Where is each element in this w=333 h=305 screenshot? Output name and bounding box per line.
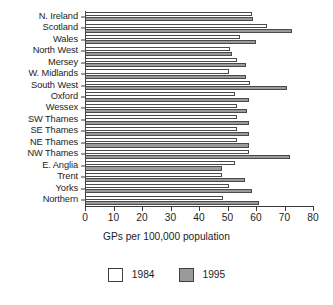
bar-chart: N. IrelandScotlandWalesNorth WestMerseyW… xyxy=(0,0,333,305)
bar-1995 xyxy=(85,86,287,90)
bar-1984 xyxy=(85,104,237,108)
x-axis-tick-label: 10 xyxy=(108,213,119,223)
bar-1984 xyxy=(85,138,237,142)
chart-legend: 1984 1995 xyxy=(0,268,333,282)
bar-1984 xyxy=(85,115,237,119)
x-axis-tick xyxy=(142,206,143,211)
legend-label-1995: 1995 xyxy=(203,270,226,280)
y-axis-label: Yorks xyxy=(56,184,78,193)
bar-1995 xyxy=(85,166,222,170)
bar-1995 xyxy=(85,109,247,113)
bar-1995 xyxy=(85,189,252,193)
bar-1995 xyxy=(85,155,290,159)
legend-swatch-1984-icon xyxy=(108,268,123,282)
y-axis-label: NW Thames xyxy=(27,150,78,159)
bar-1995 xyxy=(85,143,249,147)
bar-1995 xyxy=(85,29,292,33)
bar-1984 xyxy=(85,150,249,154)
x-axis-tick xyxy=(228,206,229,211)
bar-1984 xyxy=(85,184,229,188)
chart-row: NE Thames xyxy=(85,137,313,148)
x-axis-tick-label: 70 xyxy=(279,213,290,223)
bar-1995 xyxy=(85,52,232,56)
bar-1984 xyxy=(85,12,252,16)
chart-row: South West xyxy=(85,80,313,91)
bar-1995 xyxy=(85,17,253,21)
x-axis-tick-label: 50 xyxy=(222,213,233,223)
chart-row: W. Midlands xyxy=(85,68,313,79)
x-axis-tick-label: 20 xyxy=(136,213,147,223)
y-axis-label: E. Anglia xyxy=(42,161,78,170)
chart-row: Mersey xyxy=(85,57,313,68)
bar-1984 xyxy=(85,47,230,51)
y-axis-label: South West xyxy=(31,81,78,90)
bar-1984 xyxy=(85,92,235,96)
chart-row: N. Ireland xyxy=(85,11,313,22)
legend-item-1984: 1984 xyxy=(108,268,155,282)
y-axis-label: North West xyxy=(33,46,78,55)
x-axis-tick-label: 30 xyxy=(165,213,176,223)
bar-1995 xyxy=(85,132,249,136)
chart-row: North West xyxy=(85,45,313,56)
x-axis-tick-label: 80 xyxy=(307,213,318,223)
legend-item-1995: 1995 xyxy=(179,268,226,282)
x-axis-tick xyxy=(199,206,200,211)
x-axis-tick-label: 0 xyxy=(82,213,88,223)
bar-1995 xyxy=(85,121,249,125)
x-axis-tick xyxy=(285,206,286,211)
bar-1984 xyxy=(85,24,267,28)
x-axis-tick xyxy=(256,206,257,211)
y-axis-label: NE Thames xyxy=(30,138,78,147)
bar-1984 xyxy=(85,35,240,39)
chart-row: SE Thames xyxy=(85,126,313,137)
bar-1984 xyxy=(85,69,229,73)
x-axis-tick-label: 40 xyxy=(193,213,204,223)
x-axis-tick-label: 60 xyxy=(250,213,261,223)
chart-row: NW Thames xyxy=(85,149,313,160)
bar-1984 xyxy=(85,58,237,62)
x-axis-tick xyxy=(313,206,314,211)
bar-1984 xyxy=(85,127,237,131)
bar-1995 xyxy=(85,75,246,79)
chart-row: SW Thames xyxy=(85,114,313,125)
legend-label-1984: 1984 xyxy=(132,270,155,280)
legend-swatch-1995-icon xyxy=(179,268,194,282)
y-axis-label: N. Ireland xyxy=(39,12,78,21)
bar-1984 xyxy=(85,173,222,177)
y-axis-label: Wessex xyxy=(46,104,78,113)
x-axis-tick xyxy=(85,206,86,211)
bar-1995 xyxy=(85,98,249,102)
y-axis-label: Wales xyxy=(53,35,78,44)
x-axis-title: GPs per 100,000 population xyxy=(0,231,333,242)
y-axis-label: Oxford xyxy=(51,92,78,101)
y-axis-label: SE Thames xyxy=(30,127,78,136)
bar-1995 xyxy=(85,63,246,67)
bar-1995 xyxy=(85,40,256,44)
plot-area: N. IrelandScotlandWalesNorth WestMerseyW… xyxy=(85,11,313,206)
bar-1995 xyxy=(85,178,245,182)
chart-row: Trent xyxy=(85,172,313,183)
y-axis-label: Mersey xyxy=(48,58,78,67)
bar-1984 xyxy=(85,196,223,200)
y-axis-label: SW Thames xyxy=(28,115,78,124)
y-axis-label: Scotland xyxy=(43,24,78,33)
chart-row: Yorks xyxy=(85,183,313,194)
chart-row: Northern xyxy=(85,195,313,206)
y-axis-label: Northern xyxy=(43,196,78,205)
chart-row: Oxford xyxy=(85,91,313,102)
chart-row: Wales xyxy=(85,34,313,45)
chart-row: E. Anglia xyxy=(85,160,313,171)
y-axis-label: Trent xyxy=(57,173,78,182)
bar-1984 xyxy=(85,81,250,85)
chart-row: Wessex xyxy=(85,103,313,114)
bar-1995 xyxy=(85,201,259,205)
x-axis-tick xyxy=(114,206,115,211)
x-axis-tick xyxy=(171,206,172,211)
bar-1984 xyxy=(85,161,235,165)
y-axis-label: W. Midlands xyxy=(28,69,78,78)
chart-row: Scotland xyxy=(85,22,313,33)
